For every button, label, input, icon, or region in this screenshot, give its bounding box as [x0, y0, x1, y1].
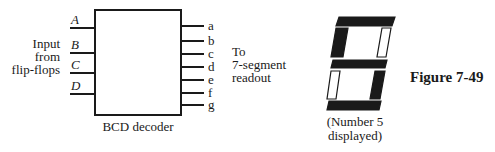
segment-e-off [327, 71, 340, 99]
output-lines [181, 26, 204, 105]
segment-b-off [377, 28, 391, 57]
output-caption-line3: readout [232, 70, 271, 85]
display-caption-line1: (Number 5 [327, 114, 384, 129]
decoder-title: BCD decoder [102, 119, 174, 134]
segment-a-on [336, 17, 395, 26]
input-caption-line3: flip-flops [12, 62, 60, 77]
bcd-decoder-box [95, 10, 181, 115]
segment-d-on [327, 101, 381, 110]
output-label-a: a [208, 18, 214, 33]
input-label-c: C [71, 57, 80, 72]
seven-segment-display [327, 17, 395, 110]
input-label-d: D [70, 78, 81, 93]
segment-f-on [331, 28, 348, 57]
display-caption-line2: displayed) [328, 128, 382, 143]
diagram-canvas: A B C D Input from flip-flops a b c d e … [0, 0, 495, 152]
segment-g-on [331, 60, 387, 68]
input-label-b: B [71, 37, 79, 52]
input-label-a: A [70, 12, 79, 27]
segment-c-on [370, 71, 385, 99]
output-label-g: g [208, 97, 215, 112]
figure-label: Figure 7-49 [410, 69, 483, 85]
